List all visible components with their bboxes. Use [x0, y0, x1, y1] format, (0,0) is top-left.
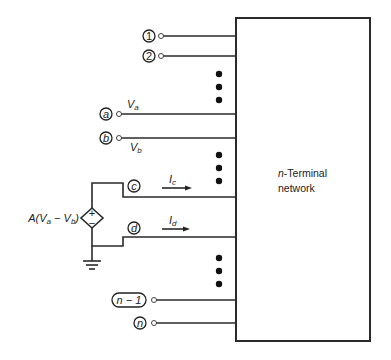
terminal-node	[117, 136, 122, 141]
terminal-wire	[92, 228, 236, 246]
terminal-n-minus-1: n − 1	[112, 293, 236, 307]
voltage-vb-label: Vb	[130, 141, 142, 155]
terminal-label: 2	[146, 50, 152, 62]
terminal-1: 1	[143, 30, 236, 42]
terminal-label: n	[137, 317, 143, 329]
network-title-line1: n-Terminal	[278, 167, 327, 179]
ground-icon	[83, 246, 101, 269]
terminal-label: 1	[146, 30, 152, 42]
terminal-wire	[92, 183, 236, 208]
terminal-node	[159, 34, 164, 39]
terminal-2: 2	[143, 50, 236, 62]
n-terminal-network-box	[236, 18, 370, 341]
terminal-node	[152, 298, 157, 303]
terminal-node	[152, 321, 157, 326]
terminal-label: n − 1	[117, 294, 142, 306]
terminal-c: c Ic	[92, 173, 236, 208]
source-gain-label: A(Va − Vb)	[27, 212, 79, 226]
current-ic-label: Ic	[169, 173, 176, 187]
terminal-node	[159, 54, 164, 59]
arrow-head-icon	[185, 186, 192, 191]
arrow-head-icon	[183, 227, 190, 232]
terminal-d: d Id	[92, 214, 236, 246]
terminal-b: b Vb	[100, 132, 236, 155]
dependent-voltage-source: + − A(Va − Vb)	[27, 207, 103, 229]
terminal-label: d	[131, 222, 138, 234]
circuit-diagram: n-Terminal network 1 2 a Va b Vb	[0, 0, 391, 360]
terminal-a: a Va	[100, 98, 236, 120]
voltage-va-label: Va	[127, 98, 139, 112]
network-title-line2: network	[278, 182, 316, 194]
terminal-label: a	[103, 108, 109, 120]
ellipsis-dots	[216, 152, 222, 184]
minus-sign: −	[89, 217, 95, 229]
ellipsis-dots	[216, 255, 222, 287]
terminal-node	[117, 112, 122, 117]
terminal-label: b	[103, 132, 109, 144]
terminal-label: c	[131, 180, 137, 192]
terminal-n: n	[134, 317, 236, 329]
ellipsis-dots	[216, 71, 222, 103]
current-id-label: Id	[169, 214, 177, 228]
